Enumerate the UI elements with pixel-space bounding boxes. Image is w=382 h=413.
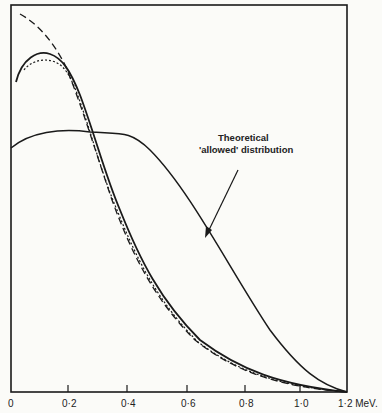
series-experimental-dotted (24, 60, 347, 392)
x-tick-label: 1·0 (294, 398, 309, 409)
beta-spectrum-chart: 0 0·2 0·4 0·6 0·8 1·0 1·2 MeV. Theoretic… (0, 0, 382, 413)
annotation-line2: 'allowed' distribution (199, 144, 293, 155)
series-theoretical-allowed (11, 131, 347, 392)
x-ticks (68, 385, 300, 392)
arrowhead-icon (205, 226, 212, 238)
x-tick-label: 1·2 MeV. (338, 398, 378, 409)
x-tick-label: 0·8 (239, 398, 254, 409)
x-tick-label: 0·2 (62, 398, 77, 409)
x-tick-label: 0·4 (121, 398, 136, 409)
annotation-line1: Theoretical (218, 132, 269, 143)
x-tick-label: 0 (8, 398, 14, 409)
annotation-arrow (208, 170, 238, 232)
series-experimental-solid (16, 53, 347, 392)
x-tick-label: 0·6 (181, 398, 196, 409)
plot-frame (11, 5, 347, 392)
